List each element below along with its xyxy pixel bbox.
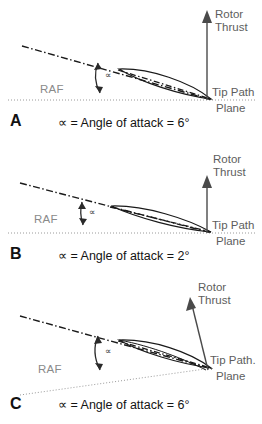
rotor-thrust-arrow-head — [202, 175, 212, 188]
panel-c: Rotor Thrust Tip Path. Plane RAF ∝ C ∝ =… — [0, 278, 262, 424]
raf-label: RAF — [34, 213, 58, 226]
panel-letter-b: B — [10, 245, 22, 263]
angle-arrow-head-top — [94, 63, 102, 70]
tip-path-label-top: Tip Path. — [210, 354, 256, 367]
panel-caption-c: ∝ = Angle of attack = 6° — [58, 398, 189, 412]
rotor-thrust-label-line1: Rotor — [213, 153, 246, 166]
panel-letter-c: C — [10, 395, 22, 413]
rotor-thrust-arrow-head — [186, 297, 196, 311]
tip-path-label-bottom: Plane — [216, 370, 245, 383]
relative-airflow-line — [20, 316, 212, 369]
rotor-thrust-label-line2: Thrust — [215, 21, 248, 34]
airfoil-shape — [119, 340, 211, 368]
raf-label: RAF — [38, 363, 62, 376]
chord-line — [110, 207, 211, 232]
panel-b: Rotor Thrust Tip Path Plane RAF ∝ B ∝ = … — [0, 145, 262, 278]
rotor-thrust-arrow-head — [202, 10, 212, 23]
rotor-thrust-label-line1: Rotor — [215, 8, 248, 21]
chord-line — [118, 70, 211, 99]
rotor-thrust-label-line2: Thrust — [213, 166, 246, 179]
alpha-symbol: ∝ — [105, 346, 111, 356]
tip-path-label-bottom: Plane — [216, 235, 245, 248]
rotor-thrust-label: Rotor Thrust — [215, 8, 248, 34]
rotor-thrust-label-line2: Thrust — [198, 294, 231, 307]
panel-caption-b: ∝ = Angle of attack = 2° — [58, 249, 189, 263]
panel-letter-a: A — [10, 112, 22, 130]
alpha-symbol: ∝ — [105, 70, 111, 80]
rotor-thrust-label-line1: Rotor — [198, 281, 231, 294]
angle-arrow-head-bottom — [79, 218, 87, 225]
alpha-symbol: ∝ — [89, 207, 95, 217]
tip-path-label-top: Tip Path — [212, 86, 254, 99]
rotor-thrust-label: Rotor Thrust — [213, 153, 246, 179]
tip-path-label-bottom: Plane — [216, 102, 245, 115]
angle-arrow-head-top — [78, 202, 86, 209]
raf-label: RAF — [40, 83, 64, 96]
panel-caption-a: ∝ = Angle of attack = 6° — [58, 116, 189, 130]
panel-a: Rotor Thrust Tip Path Plane RAF ∝ A ∝ = … — [0, 0, 262, 145]
rotor-thrust-label: Rotor Thrust — [198, 281, 231, 307]
chord-line — [118, 341, 211, 368]
airfoil-shape — [119, 69, 211, 99]
tip-path-label-top: Tip Path — [212, 219, 254, 232]
